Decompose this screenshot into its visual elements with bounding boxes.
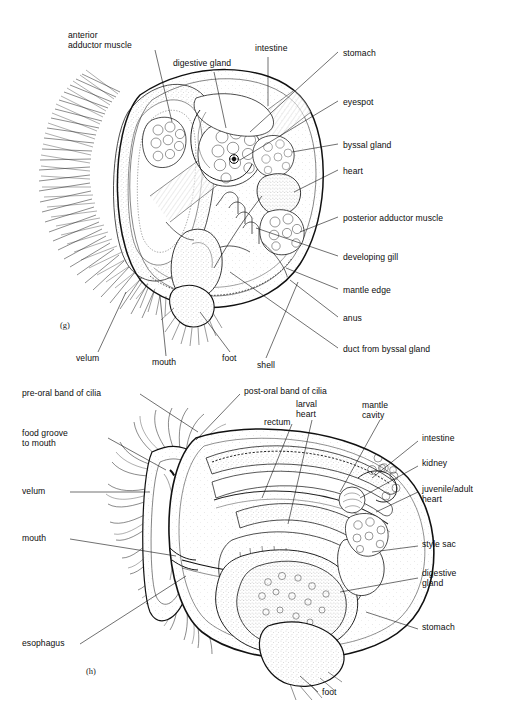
label-g-anterior-adductor-muscle: anterior adductor muscle [68,30,132,51]
h-kidney [339,487,365,513]
label-h-mantle-cavity: mantle cavity [362,400,388,421]
label-h-food-groove-to-mouth: food groove to mouth [22,428,68,449]
label-g-foot: foot [222,353,237,363]
label-h-post-oral-band-of-cilia: post-oral band of cilia [244,386,327,396]
label-h-foot: foot [322,687,337,697]
label-h-juvenile-adult-heart: juvenile/adult heart [422,484,473,505]
label-h-mouth: mouth [22,533,46,543]
panel-marker-g: (g) [60,320,70,330]
label-h-rectum: rectum [264,417,291,427]
label-h-style-sac: style sac [422,539,456,549]
label-h-pre-oral-band-of-cilia: pre-oral band of cilia [22,388,101,398]
label-g-intestine: intestine [255,43,287,53]
label-h-velum: velum [22,486,45,496]
label-g-digestive-gland: digestive gland [173,58,231,68]
label-g-mouth: mouth [152,357,176,367]
figure-page: anterior adductor muscle digestive gland… [0,0,507,710]
panel-h-drawing [70,394,434,700]
g-posterior-adductor-muscle [260,210,304,255]
g-eyespot [230,155,239,164]
label-g-anus: anus [343,313,362,323]
label-h-kidney: kidney [422,458,447,468]
label-g-developing-gill: developing gill [343,252,398,262]
label-h-larval-heart: larval heart [296,399,317,420]
label-g-duct-from-byssal-gland: duct from byssal gland [343,344,430,354]
label-h-intestine: intestine [422,433,454,443]
g-heart [257,174,301,215]
g-byssal-gland [253,135,294,176]
label-g-velum: velum [76,353,99,363]
panel-g-drawing [39,50,338,358]
label-g-posterior-adductor-muscle: posterior adductor muscle [343,213,443,223]
label-g-eyespot: eyespot [343,97,373,107]
label-g-shell: shell [257,360,275,370]
label-g-mantle-edge: mantle edge [343,285,391,295]
label-g-stomach: stomach [343,48,376,58]
label-g-byssal-gland: byssal gland [343,140,391,150]
label-g-heart: heart [343,166,363,176]
label-h-esophagus: esophagus [22,638,65,648]
label-h-stomach: stomach [422,622,455,632]
label-h-digestive-gland: digestive gland [422,568,456,589]
panel-marker-h: (h) [86,666,96,676]
g-anterior-adductor-muscle [142,117,186,167]
